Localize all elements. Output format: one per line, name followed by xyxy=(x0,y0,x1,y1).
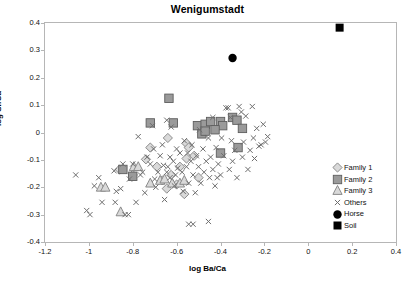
data-point xyxy=(201,127,209,135)
data-point xyxy=(73,172,78,177)
data-point xyxy=(171,159,176,164)
data-point xyxy=(146,178,155,187)
data-point xyxy=(261,122,266,127)
square-filled-black-icon xyxy=(331,220,344,231)
data-point xyxy=(212,183,217,188)
data-point xyxy=(218,121,226,129)
x-tick-mark xyxy=(133,243,134,246)
legend-item-soil[interactable]: Soil xyxy=(331,220,393,232)
data-point xyxy=(201,170,206,175)
data-point xyxy=(186,222,191,227)
x-tick-mark xyxy=(308,243,309,246)
legend-label: Soil xyxy=(344,220,357,232)
y-tick-label: 0.4 xyxy=(10,18,40,27)
legend-item-family-1[interactable]: Family 1 xyxy=(331,162,393,174)
x-tick-mark xyxy=(396,243,397,246)
data-point xyxy=(146,143,155,152)
data-point xyxy=(163,133,172,142)
data-point xyxy=(263,139,268,144)
y-tick-label: -0.2 xyxy=(10,182,40,191)
data-point xyxy=(211,126,219,134)
data-point xyxy=(219,135,224,140)
triangle-open-icon xyxy=(331,185,344,196)
x-tick-mark xyxy=(221,243,222,246)
data-point xyxy=(265,134,270,139)
data-point xyxy=(133,200,138,205)
data-point xyxy=(190,172,195,177)
data-point xyxy=(254,126,259,131)
data-point xyxy=(165,164,170,169)
data-point xyxy=(227,167,232,172)
legend-label: Family 2 xyxy=(344,174,372,186)
data-point xyxy=(167,155,172,160)
x-tick-label: -0.4 xyxy=(201,247,241,256)
x-tick-label: -1.2 xyxy=(25,247,65,256)
data-point xyxy=(165,94,173,102)
data-point xyxy=(251,135,256,140)
data-point xyxy=(177,150,182,155)
series-horse xyxy=(228,54,236,62)
data-point xyxy=(152,176,157,181)
x-tick-mark xyxy=(352,243,353,246)
data-point xyxy=(206,135,211,140)
x-tick-mark xyxy=(45,243,46,246)
legend-label: Family 3 xyxy=(344,185,372,197)
x-tick-label: 0.2 xyxy=(332,247,372,256)
data-point xyxy=(180,170,185,175)
legend-item-horse[interactable]: Horse xyxy=(331,208,393,220)
data-point xyxy=(84,208,89,213)
data-point xyxy=(114,189,119,194)
data-point xyxy=(198,181,203,186)
data-point xyxy=(243,113,248,118)
data-point xyxy=(160,142,165,147)
data-point xyxy=(92,183,97,188)
data-point xyxy=(207,175,212,180)
x-tick-mark xyxy=(264,243,265,246)
data-point xyxy=(229,138,234,143)
x-tick-label: -0.2 xyxy=(244,247,284,256)
circle-filled-icon xyxy=(331,209,344,220)
data-point xyxy=(193,190,198,195)
data-point xyxy=(196,164,201,169)
data-point xyxy=(136,134,141,139)
x-tick-label: 0.4 xyxy=(376,247,415,256)
legend-label: Horse xyxy=(344,208,364,220)
x-tick-label: -0.6 xyxy=(157,247,197,256)
x-tick-label: -1 xyxy=(69,247,109,256)
x-axis-label: log Ba/Ca xyxy=(0,264,415,273)
legend-item-family-2[interactable]: Family 2 xyxy=(331,174,393,186)
diamond-open-icon xyxy=(331,162,344,173)
legend-item-others[interactable]: Others xyxy=(331,197,393,209)
data-point xyxy=(215,175,220,180)
data-point xyxy=(237,104,242,109)
data-point xyxy=(200,146,205,151)
data-point xyxy=(208,155,213,160)
data-point xyxy=(119,165,127,173)
chart-root: Wenigumstadt log Sr/Ca log Ba/Ca 0.40.30… xyxy=(0,0,415,284)
data-point xyxy=(142,190,147,195)
data-point xyxy=(126,212,131,217)
x-tick-label: -0.8 xyxy=(113,247,153,256)
data-point xyxy=(258,142,263,147)
y-tick-label: -0.3 xyxy=(10,210,40,219)
series-soil xyxy=(336,24,344,32)
data-point xyxy=(174,146,179,151)
data-point xyxy=(228,54,236,62)
data-point xyxy=(210,167,215,172)
y-axis-label: log Sr/Ca xyxy=(0,69,3,149)
x-tick-mark xyxy=(177,243,178,246)
data-point xyxy=(87,212,92,217)
legend-item-family-3[interactable]: Family 3 xyxy=(331,185,393,197)
data-point xyxy=(162,197,167,202)
data-point xyxy=(164,170,169,175)
series-family-3 xyxy=(96,162,189,216)
data-point xyxy=(158,153,163,158)
chart-legend: Family 1Family 2Family 3OthersHorseSoil xyxy=(331,162,393,232)
data-point xyxy=(241,139,246,144)
data-point xyxy=(336,24,344,32)
y-tick-label: 0.1 xyxy=(10,100,40,109)
data-point xyxy=(216,161,221,166)
data-point xyxy=(233,116,241,124)
data-point xyxy=(161,163,166,168)
data-point xyxy=(234,175,239,180)
